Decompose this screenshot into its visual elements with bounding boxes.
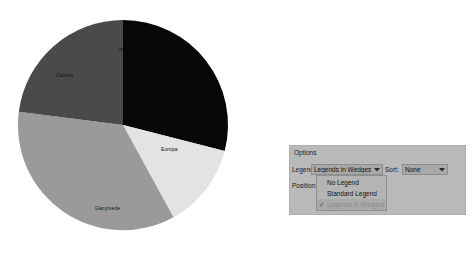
dropdown-item-label: Standard Legend [327, 190, 377, 197]
legend-dropdown-menu[interactable]: No Legend Standard Legend ✔ Legends in W… [316, 175, 387, 211]
dropdown-item-label: No Legend [327, 179, 359, 186]
chevron-down-icon[interactable] [373, 165, 380, 174]
panel-title: Options [294, 149, 316, 156]
pie-slice-callisto[interactable] [19, 20, 123, 125]
pie-chart: Io Europa Ganymede Callisto [0, 0, 260, 256]
check-icon: ✔ [319, 201, 327, 208]
dropdown-item-legends-in-wedges[interactable]: ✔ Legends in Wedges [317, 199, 386, 210]
screenshot-root: Io Europa Ganymede Callisto Options Lege… [0, 0, 476, 256]
sort-label: Sort: [385, 166, 399, 173]
dropdown-item-standard-legend[interactable]: Standard Legend [317, 188, 386, 199]
sort-combobox[interactable]: None [402, 164, 448, 175]
dropdown-item-label: Legends in Wedges [327, 201, 384, 208]
legend-combobox-value: Legends in Wedges [314, 166, 373, 173]
legend-combobox[interactable]: Legends in Wedges [311, 164, 383, 175]
pie-chart-svg [0, 0, 260, 256]
options-panel: Options Legend: Position: Sort: Legends … [289, 145, 466, 215]
sort-combobox-value: None [405, 166, 438, 173]
position-label: Position: [292, 182, 317, 189]
chevron-down-icon[interactable] [438, 165, 445, 174]
dropdown-item-no-legend[interactable]: No Legend [317, 177, 386, 188]
